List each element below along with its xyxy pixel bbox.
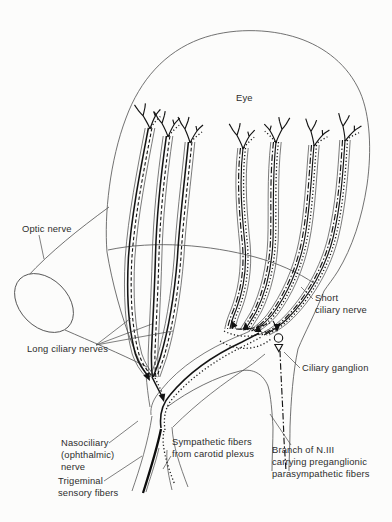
anatomy-figure: Eye Optic nerve Long ciliary nerves Shor… (0, 0, 392, 522)
label-nasociliary-nerve: Nasociliary (61, 437, 109, 448)
short-ciliary-bundle-3 (249, 145, 319, 331)
ciliary-ganglion-symbol (274, 334, 282, 352)
label-niii-branch: Branch of N.III (272, 444, 334, 455)
posterior-eye-arc (108, 245, 315, 284)
label-eye: Eye (236, 92, 253, 103)
label-sympathetic-fibers: Sympathetic fibers (172, 436, 252, 447)
long-ciliary-bundle-2 (148, 136, 173, 377)
orbit-left-edge (107, 252, 146, 374)
label-ciliary-ganglion: Ciliary ganglion (302, 362, 369, 373)
svg-text:(ophthalmic): (ophthalmic) (61, 449, 114, 460)
svg-text:carrying preganglionic: carrying preganglionic (272, 456, 367, 467)
label-optic-nerve: Optic nerve (22, 223, 72, 234)
long-ciliary-bundle-1 (124, 128, 155, 377)
svg-text:ciliary nerve: ciliary nerve (315, 304, 367, 315)
label-trigeminal-fibers: Trigeminal (58, 475, 103, 486)
svg-text:parasympathetic fibers: parasympathetic fibers (272, 468, 370, 479)
svg-text:nerve: nerve (61, 461, 85, 472)
optic-nerve-stump (3, 262, 85, 344)
trigeminal-branch (132, 416, 161, 493)
short-ciliary-bundle-1 (225, 148, 251, 329)
ganglion-cell-icon (274, 334, 282, 342)
eye-innervation-diagram: Eye Optic nerve Long ciliary nerves Shor… (0, 0, 392, 522)
long-ciliary-bundle-3 (150, 142, 195, 377)
label-long-ciliary-nerves: Long ciliary nerves (27, 343, 108, 354)
synapse-triangle-icon (275, 345, 283, 352)
svg-text:from carotid plexus: from carotid plexus (172, 448, 254, 459)
labels: Eye Optic nerve Long ciliary nerves Shor… (22, 92, 370, 498)
svg-text:sensory fibers: sensory fibers (58, 487, 119, 498)
label-short-ciliary-nerve: Short (315, 292, 338, 303)
eye-outline (106, 31, 369, 291)
